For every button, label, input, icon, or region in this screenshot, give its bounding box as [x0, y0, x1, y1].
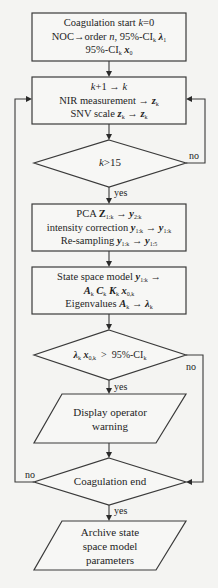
warning-line-1: Display operator [40, 405, 180, 419]
text: +1 → [96, 81, 123, 92]
arrowhead [106, 324, 112, 330]
edge-label-no: no [186, 361, 196, 373]
subscript: k [153, 37, 156, 43]
text: , 95%-CI [114, 31, 153, 42]
arrowhead [106, 388, 112, 394]
subscript: 1:k [106, 214, 114, 220]
arrowhead [106, 261, 112, 267]
text: intensity correction [47, 222, 131, 233]
text: =0 [143, 17, 154, 28]
subscript: 1 [163, 37, 166, 43]
text: Re-sampling [61, 235, 117, 246]
text: → [148, 271, 161, 282]
edge-label-yes: yes [114, 505, 127, 517]
subscript: 0,k [89, 355, 97, 361]
subscript: k [103, 291, 106, 297]
text: → [129, 235, 145, 246]
subscript: 0,k [127, 291, 135, 297]
text: State space model [57, 271, 135, 282]
node-start-label: Coagulation start k=0 NOC→order n, 95%-C… [32, 16, 186, 57]
arrowhead [106, 452, 112, 458]
start-line-1: Coagulation start k=0 [32, 16, 186, 30]
var-k: k [122, 81, 127, 92]
text: NIR measurement → [59, 95, 151, 106]
node-check-ci-label: λk x0,k > 95%-CIk [34, 348, 186, 362]
arrowhead [106, 198, 112, 204]
subscript: k [150, 304, 153, 310]
text: 95%-CI [85, 44, 118, 55]
edge-label-yes: yes [114, 381, 127, 393]
archive-line-2: space model [40, 539, 180, 553]
node-archive-label: Archive state space model parameters [40, 525, 180, 567]
text: → [143, 222, 159, 233]
text: >15 [104, 156, 121, 168]
text: Coagulation end [74, 475, 146, 487]
text: Coagulation start [64, 17, 139, 28]
arrowhead [186, 96, 192, 102]
node-check-end-label: Coagulation end [34, 475, 186, 489]
arrowhead [106, 134, 112, 140]
text: NOC→order [52, 31, 109, 42]
subscript: k [143, 355, 146, 361]
edge-label-no: no [25, 469, 35, 481]
text: → [125, 108, 141, 119]
subscript: k [91, 291, 94, 297]
subscript: 1:k [164, 228, 172, 234]
warning-line-2: warning [40, 419, 180, 433]
subscript: k [145, 114, 148, 120]
subscript: k [116, 291, 119, 297]
subscript: 1:k [140, 277, 148, 283]
subscript: k [78, 355, 81, 361]
var-A: A [84, 285, 91, 296]
edge-label-no: no [189, 150, 199, 162]
node-model-label: State space model y1:k → Ak Ck Kk x0,k E… [32, 270, 186, 311]
archive-line-3: parameters [40, 553, 180, 567]
preprocess-line-2: intensity correction y1:k → y1:k [32, 221, 186, 235]
subscript: k [119, 50, 122, 56]
model-line-3: Eigenvalues Ak → λk [32, 297, 186, 311]
var-Z: Z [99, 208, 106, 219]
arrowhead [106, 71, 112, 77]
start-line-3: 95%-CIk x0 [32, 43, 186, 57]
node-measure-label: k+1 → k NIR measurement → zk SNV scale z… [32, 80, 186, 121]
edge-label-yes: yes [114, 187, 127, 199]
var-K: K [109, 285, 116, 296]
subscript: 2:k [134, 214, 142, 220]
measure-line-3: SNV scale zk → zk [32, 107, 186, 121]
subscript: 1:k [135, 228, 143, 234]
preprocess-line-1: PCA Z1:k → y2:k [32, 207, 186, 221]
model-line-2: Ak Ck Kk x0,k [32, 284, 186, 298]
preprocess-line-3: Re-sampling y1:k → y1:5 [32, 234, 186, 248]
text: SNV scale [71, 108, 118, 119]
measure-line-2: NIR measurement → zk [32, 94, 186, 108]
node-check-k-label: k>15 [34, 156, 186, 170]
subscript: k [156, 101, 159, 107]
measure-line-1: k+1 → k [32, 80, 186, 94]
edge-check-ci-no [186, 355, 203, 482]
text: → [129, 298, 145, 309]
text: Eigenvalues [65, 298, 119, 309]
node-preprocess-label: PCA Z1:k → y2:k intensity correction y1:… [32, 207, 186, 248]
model-line-1: State space model y1:k → [32, 270, 186, 284]
start-line-2: NOC→order n, 95%-CIk λ1 [32, 30, 186, 44]
text: → [114, 208, 130, 219]
node-warning-label: Display operator warning [40, 405, 180, 433]
subscript: 1:5 [150, 241, 158, 247]
text: PCA [76, 208, 98, 219]
text: > 95%-CI [96, 349, 143, 360]
arrowhead [106, 515, 112, 521]
subscript: 0 [130, 50, 133, 56]
archive-line-1: Archive state [40, 525, 180, 539]
